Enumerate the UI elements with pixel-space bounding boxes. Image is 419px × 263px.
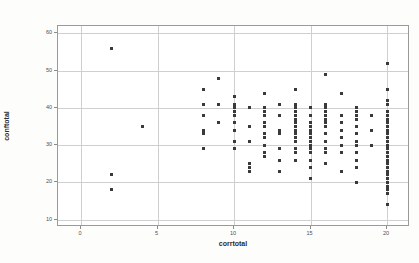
x-tick-label-0: 0 (68, 230, 92, 236)
y-axis-title: conftotal (3, 111, 10, 141)
x-tick-mark-5 (157, 226, 158, 229)
x-tick-label-5: 5 (145, 230, 169, 236)
x-tick-label-10: 10 (221, 230, 245, 236)
x-tick-mark-10 (233, 226, 234, 229)
x-tick-mark-0 (80, 226, 81, 229)
x-axis-ticks: 05101520 (0, 0, 419, 263)
x-axis-title: corrtotal (219, 240, 247, 247)
x-tick-label-15: 15 (298, 230, 322, 236)
x-tick-label-20: 20 (374, 230, 398, 236)
x-tick-mark-15 (310, 226, 311, 229)
scatter-plot: 102030405060 05101520 conftotal corrtota… (0, 0, 419, 263)
x-tick-mark-20 (386, 226, 387, 229)
